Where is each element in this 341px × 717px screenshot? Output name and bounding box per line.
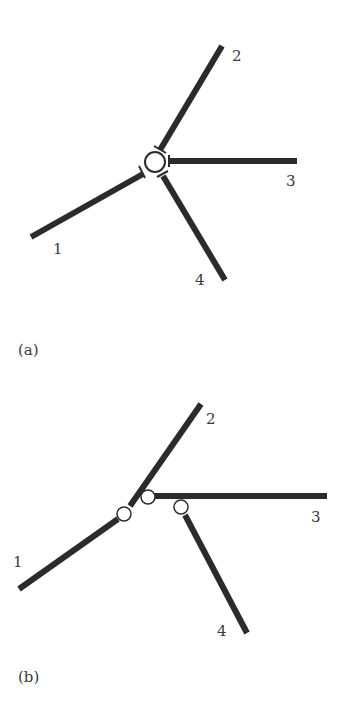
junction-node-a: [145, 152, 165, 172]
branch-label-2-a: 2: [232, 49, 242, 64]
junction-node-2-3-b: [141, 490, 155, 504]
branch-1-a: [31, 174, 143, 237]
junction-node-3-4-b: [174, 500, 188, 514]
branch-label-3-a: 3: [286, 174, 296, 189]
caption-b: (b): [18, 670, 39, 685]
junction-node-1-2-b: [117, 507, 131, 521]
branch-2-a: [160, 46, 222, 150]
branch-1-b: [19, 519, 118, 589]
diagram-a: 1 2 3 4 (a): [0, 0, 341, 360]
branch-4-a: [163, 176, 225, 280]
diagram-b: 1 2 3 4 (b): [0, 360, 341, 717]
branch-label-4-b: 4: [217, 624, 227, 639]
branch-label-2-b: 2: [206, 412, 216, 427]
caption-a: (a): [18, 343, 39, 358]
branch-label-1-a: 1: [53, 242, 63, 257]
branch-label-3-b: 3: [311, 510, 321, 525]
branch-label-4-a: 4: [195, 273, 205, 288]
branch-2-b: [130, 404, 201, 506]
diagram-b-graphic: [0, 360, 341, 717]
branch-4-b: [185, 515, 247, 633]
branch-label-1-b: 1: [13, 555, 23, 570]
